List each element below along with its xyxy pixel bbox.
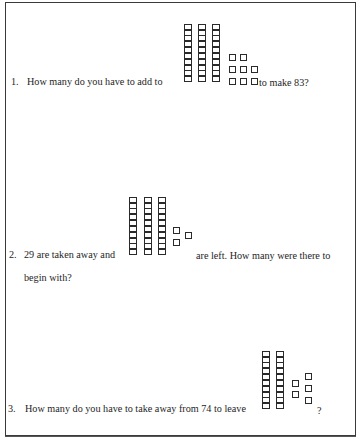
- tens-rod: [158, 197, 166, 255]
- unit-cube: [240, 54, 247, 61]
- unit-cube: [305, 397, 312, 404]
- tens-rod: [276, 351, 284, 409]
- question-number: 2.: [9, 249, 17, 261]
- unit-cube: [251, 78, 258, 85]
- tens-rod: [198, 24, 206, 82]
- unit-cube: [251, 66, 258, 73]
- tens-rod: [184, 24, 192, 82]
- question-text: How many do you have to add to: [27, 76, 163, 88]
- question-text: How many do you have to take away from 7…: [25, 403, 246, 415]
- tens-rod: [144, 197, 152, 255]
- question-text-end: are left. How many were there to: [196, 250, 330, 262]
- unit-cube: [185, 232, 192, 239]
- tens-rod: [129, 197, 137, 255]
- unit-cube: [292, 380, 299, 387]
- unit-cube: [173, 239, 180, 246]
- unit-cube: [229, 66, 236, 73]
- tens-rod: [262, 351, 270, 409]
- worksheet-frame: [5, 2, 356, 436]
- unit-cube: [240, 66, 247, 73]
- unit-cube: [305, 373, 312, 380]
- question-text-end: ?: [317, 405, 322, 417]
- unit-cube: [305, 385, 312, 392]
- unit-cube: [229, 54, 236, 61]
- question-text-line2: begin with?: [24, 272, 72, 284]
- unit-cube: [240, 78, 247, 85]
- question-number: 1.: [11, 76, 19, 88]
- unit-cube: [229, 78, 236, 85]
- unit-cube: [173, 227, 180, 234]
- question-text-end: to make 83?: [259, 77, 309, 89]
- question-number: 3.: [8, 403, 16, 415]
- unit-cube: [292, 391, 299, 398]
- tens-rod: [212, 24, 220, 82]
- question-text: 29 are taken away and: [24, 249, 115, 261]
